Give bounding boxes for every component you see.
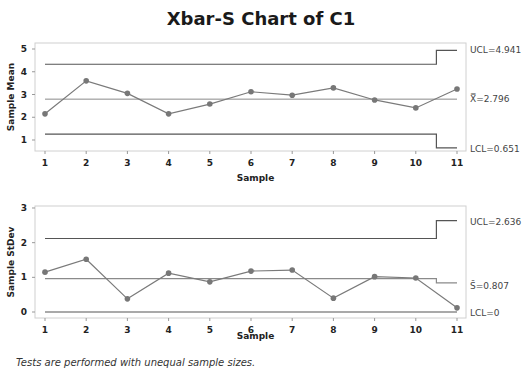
xbar-ucl-line — [45, 50, 457, 64]
x-tick-label: 5 — [207, 325, 213, 335]
x-tick-label: 5 — [207, 158, 213, 168]
x-tick-label: 6 — [248, 158, 254, 168]
x-tick-label: 11 — [451, 158, 464, 168]
x-tick-label: 2 — [83, 325, 89, 335]
data-point — [413, 275, 419, 281]
xbar-ucl-label: UCL=4.941 — [470, 45, 521, 55]
data-point — [372, 274, 378, 280]
xbar-lcl-line — [45, 134, 457, 148]
x-axis-label: Sample — [237, 173, 275, 183]
y-tick-label: 3 — [21, 90, 27, 100]
data-point — [83, 78, 89, 84]
x-tick-label: 1 — [42, 158, 48, 168]
data-point — [83, 257, 89, 263]
data-point — [125, 91, 131, 97]
xbar-lcl-label: LCL=0.651 — [470, 144, 520, 154]
s-plot-frame — [35, 206, 466, 318]
x-tick-label: 4 — [165, 325, 171, 335]
data-point — [413, 105, 419, 111]
y-tick-label: 2 — [21, 112, 27, 122]
s-ucl-label: UCL=2.636 — [470, 217, 521, 227]
xbar-s-chart: 123451234567891011SampleSample MeanUCL=4… — [0, 0, 522, 378]
y-tick-label: 0 — [21, 307, 27, 317]
s-center-label: S̄=0.807 — [470, 280, 509, 291]
data-point — [289, 92, 295, 98]
y-tick-label: 5 — [21, 44, 27, 54]
x-tick-label: 8 — [330, 325, 336, 335]
data-point — [207, 279, 213, 285]
y-tick-label: 1 — [21, 272, 27, 282]
data-point — [454, 86, 460, 92]
y-tick-label: 2 — [21, 238, 27, 248]
xbar-center-label: X̿=2.796 — [470, 93, 510, 104]
xbar-plot-frame — [35, 43, 466, 151]
s-lcl-label: LCL=0 — [470, 308, 500, 318]
x-tick-label: 4 — [165, 158, 171, 168]
x-tick-label: 9 — [371, 158, 377, 168]
data-point — [331, 85, 337, 91]
x-tick-label: 8 — [330, 158, 336, 168]
y-tick-label: 1 — [21, 135, 27, 145]
x-tick-label: 2 — [83, 158, 89, 168]
data-point — [42, 111, 48, 117]
data-point — [372, 97, 378, 103]
data-point — [42, 269, 48, 275]
data-point — [207, 101, 213, 107]
x-tick-label: 10 — [410, 158, 423, 168]
y-axis-label: Sample StDev — [6, 226, 16, 297]
data-point — [125, 296, 131, 302]
xbar-data-line — [45, 81, 457, 114]
data-point — [166, 111, 172, 117]
data-point — [166, 270, 172, 276]
data-point — [454, 305, 460, 311]
y-axis-label: Sample Mean — [6, 63, 16, 131]
footnote: Tests are performed with unequal sample … — [16, 357, 255, 368]
data-point — [331, 295, 337, 301]
x-tick-label: 3 — [124, 325, 130, 335]
data-point — [248, 89, 254, 95]
x-tick-label: 3 — [124, 158, 130, 168]
y-tick-label: 3 — [21, 203, 27, 213]
s-data-line — [45, 259, 457, 308]
data-point — [289, 267, 295, 273]
x-tick-label: 7 — [289, 325, 295, 335]
x-tick-label: 1 — [42, 325, 48, 335]
x-tick-label: 10 — [410, 325, 423, 335]
data-point — [248, 268, 254, 274]
x-axis-label: Sample — [237, 331, 275, 341]
x-tick-label: 9 — [371, 325, 377, 335]
x-tick-label: 11 — [451, 325, 464, 335]
s-ucl-line — [45, 221, 457, 239]
y-tick-label: 4 — [21, 67, 27, 77]
x-tick-label: 7 — [289, 158, 295, 168]
